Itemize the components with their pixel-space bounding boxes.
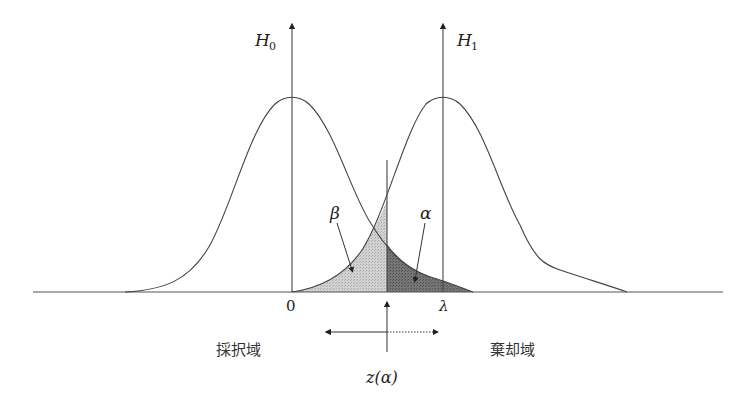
- rejection-region-label: 棄却域: [490, 341, 535, 359]
- acceptance-region-label: 採択域: [216, 341, 261, 359]
- alpha-pointer-arrow: [415, 223, 425, 280]
- hypothesis-test-diagram: H 0 H 1 β α 0 λ 採択域 棄却域 z(α): [0, 0, 745, 405]
- beta-label: β: [329, 203, 340, 223]
- h1-distribution-curve: [292, 97, 627, 292]
- h1-subscript: 1: [471, 40, 478, 53]
- beta-pointer-arrow: [337, 223, 352, 270]
- lambda-tick-label: λ: [438, 297, 449, 315]
- alpha-label: α: [420, 203, 432, 223]
- h0-subscript: 0: [269, 40, 276, 53]
- alpha-area: [387, 244, 473, 292]
- zero-tick-label: 0: [286, 297, 296, 315]
- h0-distribution-curve: [125, 97, 473, 292]
- critical-value-label: z(α): [365, 368, 398, 387]
